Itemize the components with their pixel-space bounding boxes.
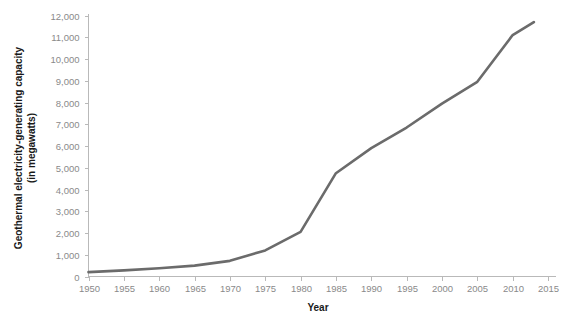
y-axis-tick-labels: 01,0002,0003,0004,0005,0006,0007,0008,00… bbox=[50, 11, 79, 283]
x-tick-label: 1975 bbox=[255, 283, 276, 294]
x-axis-title: Year bbox=[307, 302, 328, 313]
x-tick-label: 2015 bbox=[538, 283, 559, 294]
chart-canvas: Geothermal electricity-generating capaci… bbox=[0, 0, 566, 328]
x-tick-label: 1980 bbox=[291, 283, 312, 294]
x-axis-tick-labels: 1950195519601965197019751980198519901995… bbox=[79, 283, 559, 294]
y-tick-label: 11,000 bbox=[51, 32, 79, 43]
x-tick-label: 2005 bbox=[467, 283, 488, 294]
y-tick-label: 7,000 bbox=[56, 119, 80, 130]
y-tick-label: 8,000 bbox=[56, 98, 80, 109]
y-tick-label: 6,000 bbox=[56, 141, 80, 152]
x-tick-label: 2000 bbox=[432, 283, 453, 294]
y-tick-label: 9,000 bbox=[56, 76, 80, 87]
x-tick-label: 1995 bbox=[397, 283, 418, 294]
y-tick-label: 12,000 bbox=[50, 11, 79, 22]
x-tick-label: 1965 bbox=[185, 283, 206, 294]
y-tick-label: 2,000 bbox=[56, 228, 80, 239]
x-tick-label: 1960 bbox=[149, 283, 170, 294]
y-tick-label: 0 bbox=[74, 272, 79, 283]
y-tick-label: 5,000 bbox=[56, 163, 80, 174]
y-tick-label: 10,000 bbox=[50, 54, 79, 65]
data-series-line bbox=[89, 22, 534, 272]
y-axis-title-line1: Geothermal electricity-generating capaci… bbox=[13, 46, 24, 249]
x-tick-label: 2010 bbox=[503, 283, 524, 294]
y-tick-label: 4,000 bbox=[56, 185, 80, 196]
x-tick-label: 1955 bbox=[114, 283, 135, 294]
x-tick-label: 1990 bbox=[361, 283, 382, 294]
x-tick-label: 1970 bbox=[220, 283, 241, 294]
x-tick-label: 1950 bbox=[79, 283, 100, 294]
y-axis-title-line2: (in megawatts) bbox=[26, 113, 37, 183]
x-tick-label: 1985 bbox=[326, 283, 347, 294]
geothermal-capacity-line-chart: Geothermal electricity-generating capaci… bbox=[0, 0, 566, 328]
y-tick-label: 1,000 bbox=[56, 250, 80, 261]
x-axis-ticks bbox=[90, 277, 549, 281]
y-axis-ticks bbox=[85, 17, 89, 278]
y-tick-label: 3,000 bbox=[56, 206, 80, 217]
